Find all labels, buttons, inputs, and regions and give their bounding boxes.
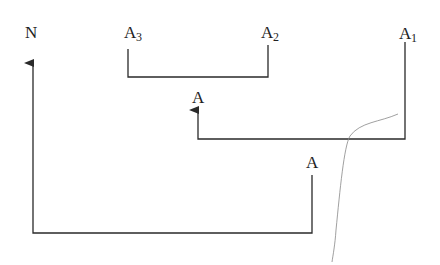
label-a-bottom: A (306, 153, 319, 172)
bracket-a3-a2 (128, 45, 268, 77)
svg-text:2: 2 (273, 30, 279, 44)
svg-text:A: A (306, 153, 319, 172)
label-a3: A 3 (124, 23, 142, 44)
derivation-diagram: N A 3 A 2 A 1 A A (0, 0, 440, 265)
svg-text:3: 3 (136, 30, 142, 44)
svg-text:N: N (25, 23, 37, 42)
arrow-a1-to-a (198, 42, 405, 139)
label-n: N (25, 23, 37, 42)
label-a2: A 2 (261, 23, 279, 44)
svg-text:A: A (192, 88, 205, 107)
arrow-a-to-n (33, 63, 312, 233)
svg-text:1: 1 (411, 31, 417, 45)
thin-curve (332, 114, 398, 262)
label-a1: A 1 (399, 24, 417, 45)
label-a-middle: A (192, 88, 205, 107)
